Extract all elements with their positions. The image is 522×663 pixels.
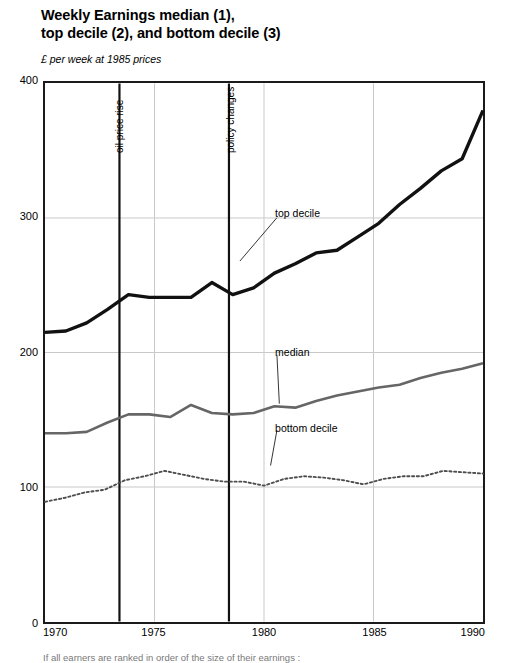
x-tick-label: 1970 <box>43 626 67 638</box>
x-tick-label: 1985 <box>362 626 386 638</box>
series-label-top-decile: top decile <box>275 207 320 219</box>
callout-leader-bottom-decile <box>271 430 277 465</box>
x-tick-label: 1990 <box>461 626 485 638</box>
plot-svg <box>45 83 483 622</box>
x-tick-label: 1980 <box>252 626 276 638</box>
series-label-bottom-decile: bottom decile <box>275 422 337 434</box>
x-tick-label: 1975 <box>141 626 165 638</box>
plot-area <box>43 81 485 624</box>
callout-leader-median <box>277 355 279 404</box>
event-annotation-label: oil price rise <box>114 100 125 153</box>
chart-page: Weekly Earnings median (1), top decile (… <box>0 0 522 663</box>
series-label-median: median <box>275 346 309 358</box>
event-annotation-label: policy changes <box>225 87 236 153</box>
footnote-text: If all earners are ranked in order of th… <box>43 652 300 663</box>
callout-leader-top-decile <box>240 218 277 261</box>
